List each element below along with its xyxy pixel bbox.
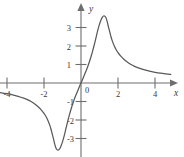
graph-figure: -4 -2 2 4 3 2 1 -1 -2 -3 0 x y bbox=[0, 0, 184, 157]
y-tick-label-1: 1 bbox=[67, 60, 71, 70]
y-tick-label-3: 3 bbox=[67, 23, 71, 33]
x-tick-label-2: 2 bbox=[116, 89, 120, 99]
y-tick-label-2: 2 bbox=[67, 42, 71, 52]
axes-group bbox=[0, 3, 178, 157]
x-axis-arrow-icon bbox=[170, 79, 178, 86]
coordinate-plane: -4 -2 2 4 3 2 1 -1 -2 -3 0 x y bbox=[0, 0, 184, 157]
x-tick-label--2: -2 bbox=[40, 89, 47, 99]
x-axis-label: x bbox=[173, 88, 179, 98]
x-tick-label-4: 4 bbox=[153, 89, 158, 99]
y-tick-label--3: -3 bbox=[67, 134, 74, 144]
origin-label: 0 bbox=[85, 85, 89, 95]
y-axis-arrow-icon bbox=[77, 3, 84, 11]
y-axis-label: y bbox=[88, 4, 94, 14]
